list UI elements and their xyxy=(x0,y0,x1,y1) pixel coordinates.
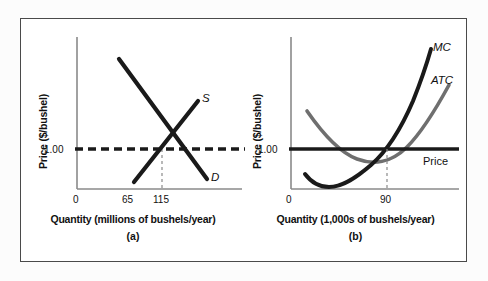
panel-b-x-axis-label: Quantity (1,000s of bushels/year) xyxy=(245,213,466,225)
panel-b-firm-cost-curves: Price ($/bushel) 1.00 MC ATC Price 0 90 xyxy=(245,19,466,263)
panel-b-atc-label: ATC xyxy=(431,74,453,86)
panel-a-x-tick-0: 0 xyxy=(73,194,79,205)
panel-b-x-tick-0: 0 xyxy=(286,194,292,205)
panel-b-tag: (b) xyxy=(245,230,466,242)
panel-b-mc-curve xyxy=(305,49,431,187)
panel-a-supply-curve xyxy=(134,101,198,182)
panel-a-demand-curve xyxy=(119,59,207,179)
panel-a-market-equilibrium: Price ($/bushel) 1.00 S D 0 6 xyxy=(21,19,245,263)
panel-b-price-label: Price xyxy=(423,155,448,167)
panel-a-supply-label: S xyxy=(202,92,210,104)
economics-figure: Price ($/bushel) 1.00 S D 0 6 xyxy=(0,0,488,281)
panel-a-x-tick-65: 65 xyxy=(122,194,133,205)
figure-frame: Price ($/bushel) 1.00 S D 0 6 xyxy=(20,18,467,262)
panel-a-plot xyxy=(21,19,245,263)
panel-a-demand-label: D xyxy=(211,171,219,183)
panel-b-plot xyxy=(245,19,466,263)
panel-a-x-tick-115: 115 xyxy=(153,194,169,205)
panel-b-x-tick-90: 90 xyxy=(380,194,391,205)
panel-b-mc-label: MC xyxy=(433,41,451,53)
panel-a-tag: (a) xyxy=(21,230,245,242)
panel-a-x-axis-label: Quantity (millions of bushels/year) xyxy=(21,213,245,225)
